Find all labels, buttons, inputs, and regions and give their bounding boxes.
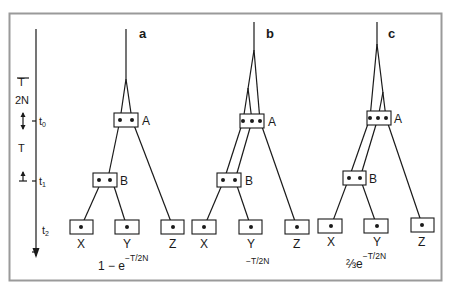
tick-t2: t2	[42, 224, 49, 237]
arrow-down-icon	[33, 248, 40, 258]
leaf-label-Z: Z	[169, 237, 176, 251]
leaf-label-Z: Z	[293, 237, 300, 251]
coalescent-tree-figure: T 2N t0 T t1 t2 a	[0, 0, 449, 290]
node-label-A: A	[394, 112, 402, 126]
panel-label-b: b	[266, 26, 274, 41]
probability-formula-a: 1 − e−T/2N	[98, 253, 148, 273]
leaf-label-X: X	[327, 235, 335, 249]
leaf-label-Y: Y	[373, 235, 381, 249]
probability-formula-c: ⅔e−T/2N	[346, 251, 386, 271]
panel-b-tree: b A B X Y Z −T/2N	[192, 22, 309, 266]
node-box-B	[93, 173, 117, 187]
node-label-B: B	[245, 174, 253, 188]
node-label-B: B	[369, 172, 377, 186]
panel-label-a: a	[139, 26, 147, 41]
panel-label-c: c	[388, 26, 395, 41]
double-arrow-icon	[21, 112, 26, 130]
node-label-B: B	[120, 174, 128, 188]
panel-c-tree: c A B X Y Z ⅔e−T/2N	[318, 22, 434, 271]
tick-t0: t0	[39, 115, 46, 128]
leaf-label-X: X	[200, 237, 208, 251]
time-axis: T 2N t0 T t1 t2	[15, 29, 49, 258]
interval-marker-icon	[19, 171, 27, 181]
panel-a-tree: a A B X Y Z 1 − e−T/2N	[70, 26, 184, 273]
node-label-A: A	[268, 115, 276, 129]
leaf-label-Z: Z	[418, 235, 425, 249]
probability-formula-b: −T/2N	[246, 256, 269, 266]
leaf-label-Y: Y	[123, 237, 131, 251]
node-box-B	[343, 171, 366, 185]
node-box-A	[114, 113, 138, 127]
node-box-B	[217, 173, 241, 187]
leaf-label-X: X	[77, 237, 85, 251]
interval-label-T-lower: T	[18, 142, 25, 154]
node-label-A: A	[142, 114, 150, 128]
tick-t1: t1	[39, 175, 46, 188]
interval-label-2N: 2N	[15, 94, 29, 106]
leaf-label-Y: Y	[247, 237, 255, 251]
